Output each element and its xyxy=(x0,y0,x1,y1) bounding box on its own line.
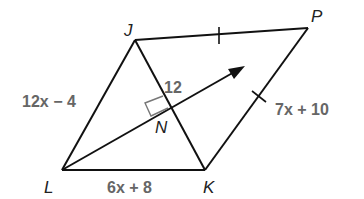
label-JL: 12x − 4 xyxy=(22,93,76,110)
diagram-canvas: J P K L N 12x − 4 12 7x + 10 6x + 8 xyxy=(0,0,364,199)
point-label-K: K xyxy=(203,178,215,197)
arrow-head-icon xyxy=(228,66,245,79)
right-angle-icon xyxy=(145,96,168,116)
label-LK: 6x + 8 xyxy=(107,179,152,196)
label-PK: 7x + 10 xyxy=(275,101,329,118)
side-JP xyxy=(135,28,308,40)
point-label-P: P xyxy=(311,7,323,26)
point-label-N: N xyxy=(155,118,168,137)
ray-LN xyxy=(62,71,236,170)
tick-mark-PK xyxy=(252,91,266,102)
side-PK xyxy=(205,28,308,170)
label-JN: 12 xyxy=(164,79,182,96)
point-label-L: L xyxy=(44,178,53,197)
rhombus-diagram: J P K L N 12x − 4 12 7x + 10 6x + 8 xyxy=(0,0,364,199)
point-label-J: J xyxy=(123,21,133,40)
